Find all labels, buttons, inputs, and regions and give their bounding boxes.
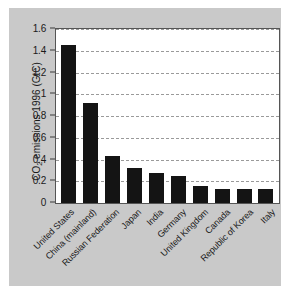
bar [61, 45, 76, 203]
y-axis-tick-label: 1 [41, 88, 46, 99]
x-axis-tick-label: Italy [259, 207, 277, 225]
bar [171, 176, 186, 203]
bar [149, 173, 164, 203]
bar [83, 103, 98, 203]
y-axis-tick-label: 1.6 [33, 23, 46, 34]
chart-panel: CO2 emissions 1996 (GtC) 00.20.40.60.811… [9, 8, 281, 286]
y-axis-tick-label: 1.2 [33, 66, 46, 77]
y-axis: 00.20.40.60.811.21.41.6 [9, 8, 55, 204]
y-axis-tick-label: 1.4 [33, 44, 46, 55]
y-axis-tick-label: 0.2 [33, 175, 46, 186]
bar [237, 189, 252, 203]
x-axis-tick-label: Japan [119, 207, 143, 231]
bar [127, 168, 142, 203]
y-axis-tick-label: 0 [41, 197, 46, 208]
y-axis-tick-label: 0.4 [33, 153, 46, 164]
bar [193, 186, 208, 203]
plot-area [55, 28, 280, 204]
bar-series [56, 29, 279, 203]
bar [105, 156, 120, 203]
x-axis-labels: United StatesChina (mainland)Russian Fed… [55, 205, 280, 293]
chart-figure: CO2 emissions 1996 (GtC) 00.20.40.60.811… [0, 0, 291, 296]
y-axis-tick-label: 0.8 [33, 110, 46, 121]
bar [258, 189, 273, 203]
y-axis-tick-label: 0.6 [33, 131, 46, 142]
bar [215, 189, 230, 203]
